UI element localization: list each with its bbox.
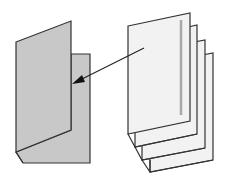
folded-sheet-front-panel (16, 21, 71, 152)
page-stack (128, 13, 213, 172)
folded-sheet (16, 21, 90, 163)
booklet-folding-diagram (0, 0, 226, 176)
